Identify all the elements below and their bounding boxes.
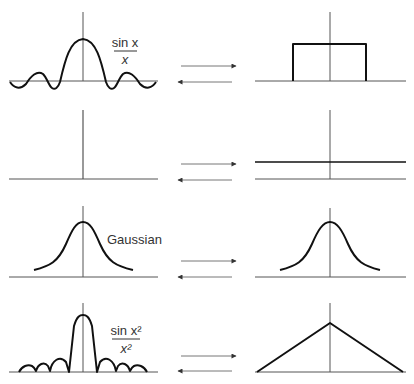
transform-arrows [178, 356, 236, 371]
sinc-squared-label-denominator: x² [120, 341, 133, 356]
impulse-plot [9, 110, 158, 179]
gaussian-plot-left: Gaussian [9, 206, 162, 277]
sinc-squared-label-numerator: sin x² [110, 323, 142, 338]
rect-plot [255, 12, 406, 81]
triangle-plot [255, 303, 406, 372]
sinc-label-numerator: sin x [112, 35, 139, 50]
transform-arrows [178, 164, 236, 180]
row-1: sin x x [9, 12, 406, 89]
sinc-label-denominator: x [121, 52, 129, 67]
constant-plot [255, 110, 406, 179]
row-4: sin x² x² [9, 303, 406, 372]
sinc-squared-plot: sin x² x² [9, 303, 158, 372]
row-2 [9, 110, 406, 180]
gaussian-label: Gaussian [107, 232, 162, 247]
row-3: Gaussian [9, 206, 406, 277]
fourier-pairs-diagram: sin x x [0, 0, 414, 384]
gaussian-plot-right [255, 208, 406, 277]
sinc-plot: sin x x [9, 12, 158, 89]
transform-arrows [178, 66, 236, 82]
transform-arrows [178, 261, 236, 277]
